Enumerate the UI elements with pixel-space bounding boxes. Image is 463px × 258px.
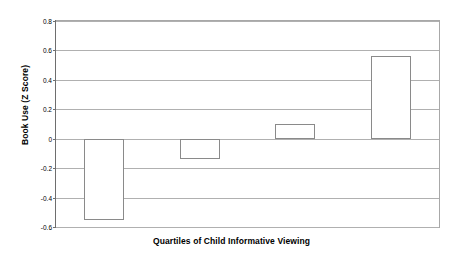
y-axis-title: Book Use (Z Score) [20, 30, 30, 180]
bar [84, 139, 124, 220]
x-axis-title: Quartiles of Child Informative Viewing [0, 236, 463, 246]
y-tick-mark [53, 21, 56, 22]
bar [275, 124, 315, 139]
y-tick-mark [53, 109, 56, 110]
y-tick-mark [53, 50, 56, 51]
y-tick-label: -0.6 [41, 224, 52, 231]
y-tick-label: -0.4 [41, 194, 52, 201]
y-tick-label: 0.2 [43, 106, 52, 113]
bar-chart-figure: Book Use (Z Score) 0.80.60.40.20-0.2-0.4… [0, 0, 463, 258]
y-tick-label: 0.8 [43, 18, 52, 25]
y-tick-mark [53, 227, 56, 228]
y-tick-label: -0.2 [41, 165, 52, 172]
y-tick-label: 0.4 [43, 76, 52, 83]
plot-area: 0.80.60.40.20-0.2-0.4-0.6 [55, 20, 440, 228]
gridline [56, 50, 439, 51]
y-tick-mark [53, 139, 56, 140]
y-tick-mark [53, 168, 56, 169]
bar [371, 56, 411, 138]
y-tick-label: 0.6 [43, 47, 52, 54]
gridline [56, 21, 439, 22]
y-tick-label: 0 [48, 135, 52, 142]
gridline [56, 227, 439, 228]
y-tick-mark [53, 80, 56, 81]
bar [180, 139, 220, 160]
y-tick-mark [53, 198, 56, 199]
